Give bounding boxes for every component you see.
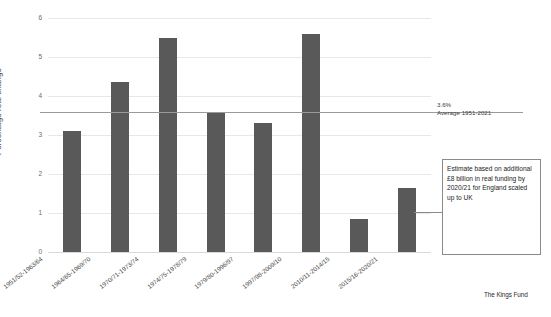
- x-tick-label: 1974/75-1978/79: [146, 256, 187, 290]
- bar: [254, 123, 272, 252]
- y-tick-label: 2: [38, 171, 42, 178]
- bar: [302, 34, 320, 252]
- bar: [63, 131, 81, 252]
- gridline: [48, 213, 431, 214]
- gridline: [48, 174, 431, 175]
- bar: [350, 219, 368, 252]
- y-tick-label: 3: [38, 132, 42, 139]
- gridline: [48, 135, 431, 136]
- callout-leader-line: [414, 212, 442, 213]
- bar: [111, 82, 129, 252]
- bar: [207, 112, 225, 252]
- average-line-value: 3.6%: [437, 101, 491, 109]
- x-tick-label: 2010/11-2014/15: [290, 256, 331, 290]
- x-tick-label: 1979/80-1996/97: [194, 256, 235, 290]
- gridline: [48, 18, 431, 19]
- x-tick-label: 1997/98-2009/10: [242, 256, 283, 290]
- average-line-caption: Average 1951-2021: [437, 109, 491, 117]
- estimate-callout-text: Estimate based on additional £8 billion …: [447, 164, 536, 202]
- x-tick-label: 2015/16-2020/21: [338, 256, 379, 290]
- bar: [159, 38, 177, 253]
- y-tick-label: 6: [38, 15, 42, 22]
- bar: [398, 188, 416, 252]
- y-tick-label: 5: [38, 54, 42, 61]
- y-axis-title: Percentage real change: [0, 68, 3, 155]
- estimate-callout-box: Estimate based on additional £8 billion …: [442, 159, 541, 255]
- average-line-annotation: 3.6% Average 1951-2021: [437, 101, 491, 118]
- y-tick-label: 4: [38, 93, 42, 100]
- x-tick-label: 1964/65-1969/70: [50, 256, 91, 290]
- chart-figure: Percentage real change 0123456 3.6% Aver…: [0, 0, 551, 317]
- x-tick-label: 1970/71-1973/74: [98, 256, 139, 290]
- y-tick-label: 1: [38, 210, 42, 217]
- gridline: [48, 57, 431, 58]
- plot-area: 0123456: [48, 18, 431, 252]
- gridline: [48, 252, 431, 253]
- x-tick-label: 1951/52-1963/64: [2, 256, 43, 290]
- source-credit: The Kings Fund: [484, 291, 528, 298]
- gridline: [48, 96, 431, 97]
